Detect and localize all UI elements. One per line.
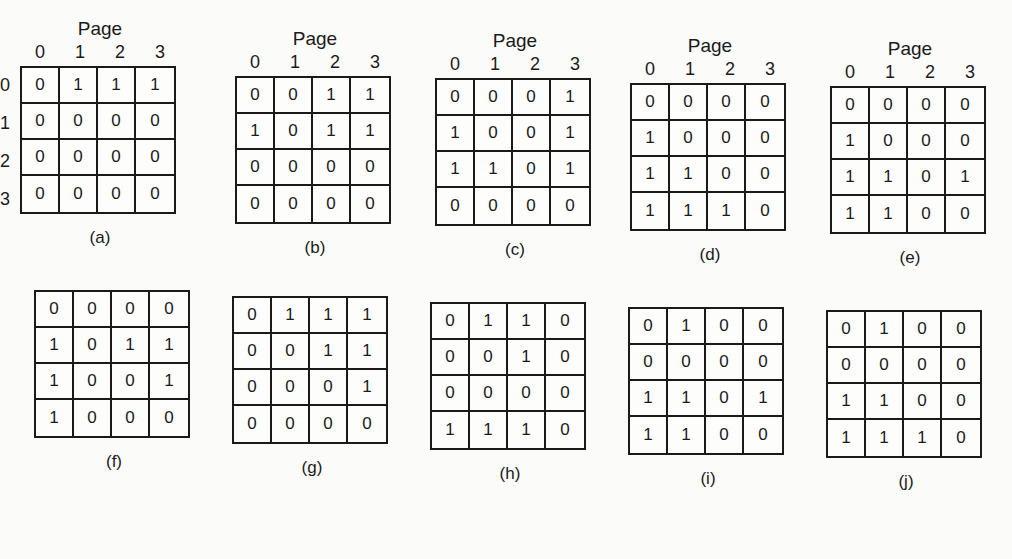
panel-caption: (j) — [826, 472, 986, 492]
bit-matrix: 0011101100000000 — [235, 76, 391, 224]
matrix-cell: 0 — [437, 80, 475, 116]
matrix-cell: 0 — [551, 188, 589, 224]
matrix-cell: 0 — [22, 68, 60, 104]
matrix-cell: 0 — [706, 309, 744, 345]
matrix-cell: 0 — [508, 376, 546, 412]
matrix-cell: 0 — [313, 150, 351, 186]
matrix-cell: 0 — [942, 312, 980, 348]
matrix-cell: 0 — [136, 140, 174, 176]
matrix-cell: 0 — [74, 364, 112, 400]
matrix-cell: 0 — [351, 150, 389, 186]
column-index: 3 — [140, 42, 180, 63]
page-axis-label: Page — [235, 28, 395, 50]
matrix-cell: 0 — [112, 364, 150, 400]
matrix-cell: 0 — [272, 334, 310, 370]
matrix-cell: 1 — [98, 68, 136, 104]
matrix-cell: 1 — [313, 114, 351, 150]
matrix-cell: 0 — [513, 80, 551, 116]
column-headers: 0123 — [830, 62, 990, 83]
matrix-cell: 0 — [946, 88, 984, 124]
matrix-cell: 0 — [475, 188, 513, 224]
matrix-cell: 1 — [668, 417, 706, 453]
matrix-cell: 1 — [866, 312, 904, 348]
matrix-panel: Page01230000100011001110(d) — [610, 35, 800, 295]
matrix-cell: 1 — [351, 114, 389, 150]
column-headers: 0123 — [235, 52, 395, 73]
matrix-cell: 0 — [60, 104, 98, 140]
column-index: 2 — [315, 52, 355, 73]
column-index: 2 — [515, 54, 555, 75]
matrix-cell: 1 — [508, 412, 546, 448]
matrix-cell: 1 — [670, 193, 708, 229]
matrix-cell: 1 — [828, 420, 866, 456]
matrix-cell: 0 — [98, 104, 136, 140]
matrix-cell: 0 — [237, 186, 275, 222]
matrix-cell: 1 — [866, 420, 904, 456]
matrix-cell: 0 — [272, 406, 310, 442]
matrix-cell: 0 — [275, 186, 313, 222]
column-index: 0 — [235, 52, 275, 73]
matrix-cell: 0 — [234, 406, 272, 442]
bit-matrix: 0000100011001110 — [630, 83, 786, 231]
matrix-cell: 1 — [551, 152, 589, 188]
matrix-cell: 0 — [828, 312, 866, 348]
matrix-cell: 0 — [36, 292, 74, 328]
matrix-panel: 0111001100010000(g) — [212, 276, 402, 536]
matrix-cell: 1 — [310, 298, 348, 334]
column-index: 0 — [20, 42, 60, 63]
matrix-panel: 0100000011011100(i) — [608, 287, 798, 547]
matrix-cell: 0 — [746, 85, 784, 121]
bit-matrix: 0100000011011100 — [628, 307, 784, 455]
matrix-cell: 1 — [348, 334, 386, 370]
matrix-cell: 0 — [668, 345, 706, 381]
column-index: 0 — [630, 59, 670, 80]
matrix-panel: Page01230011101100000000(b) — [215, 28, 405, 288]
row-index: 3 — [0, 180, 18, 218]
matrix-cell: 0 — [150, 400, 188, 436]
matrix-cell: 0 — [351, 186, 389, 222]
matrix-cell: 0 — [112, 400, 150, 436]
matrix-cell: 1 — [150, 328, 188, 364]
matrix-cell: 1 — [670, 157, 708, 193]
matrix-cell: 0 — [513, 152, 551, 188]
matrix-cell: 0 — [630, 309, 668, 345]
matrix-cell: 1 — [36, 328, 74, 364]
matrix-cell: 0 — [908, 196, 946, 232]
matrix-cell: 1 — [348, 298, 386, 334]
page-axis-label: Page — [435, 30, 595, 52]
matrix-cell: 1 — [630, 417, 668, 453]
matrix-cell: 1 — [470, 412, 508, 448]
matrix-cell: 0 — [513, 188, 551, 224]
matrix-cell: 0 — [546, 412, 584, 448]
matrix-cell: 1 — [348, 370, 386, 406]
matrix-cell: 1 — [832, 160, 870, 196]
matrix-cell: 1 — [946, 160, 984, 196]
matrix-cell: 0 — [275, 78, 313, 114]
panel-caption: (b) — [235, 238, 395, 258]
matrix-cell: 1 — [470, 304, 508, 340]
matrix-cell: 0 — [237, 78, 275, 114]
matrix-panel: Page012301230111000000000000(a) — [0, 18, 190, 278]
matrix-cell: 1 — [870, 196, 908, 232]
matrix-cell: 1 — [60, 68, 98, 104]
matrix-cell: 0 — [513, 116, 551, 152]
matrix-cell: 1 — [632, 157, 670, 193]
column-headers: 0123 — [435, 54, 595, 75]
matrix-cell: 0 — [546, 376, 584, 412]
column-index: 1 — [275, 52, 315, 73]
column-index: 1 — [60, 42, 100, 63]
matrix-cell: 1 — [508, 340, 546, 376]
row-index: 0 — [0, 66, 18, 104]
matrix-cell: 0 — [706, 381, 744, 417]
matrix-cell: 0 — [98, 176, 136, 212]
matrix-cell: 0 — [942, 384, 980, 420]
matrix-cell: 1 — [313, 78, 351, 114]
bit-matrix: 0000100011011100 — [830, 86, 986, 234]
matrix-cell: 1 — [351, 78, 389, 114]
matrix-cell: 0 — [475, 80, 513, 116]
matrix-cell: 0 — [708, 121, 746, 157]
bit-matrix: 0110001000001110 — [430, 302, 586, 450]
column-index: 0 — [435, 54, 475, 75]
matrix-cell: 0 — [746, 193, 784, 229]
matrix-cell: 0 — [432, 304, 470, 340]
